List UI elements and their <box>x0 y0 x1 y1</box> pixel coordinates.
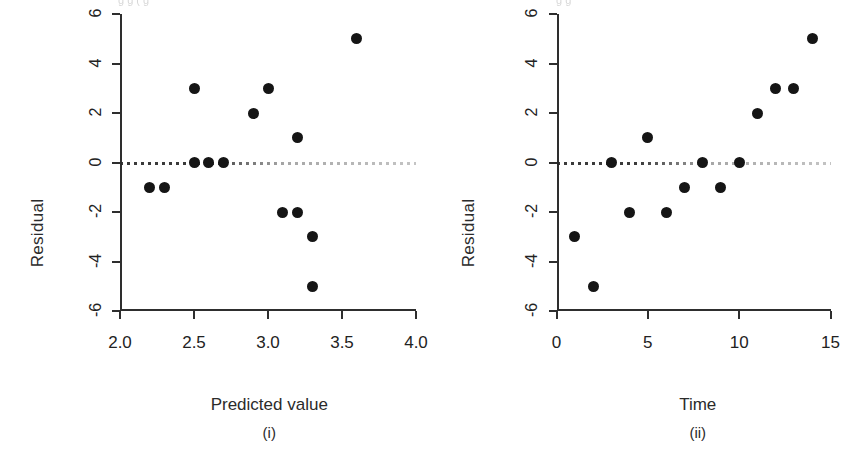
data-point <box>248 108 259 119</box>
data-point <box>277 207 288 218</box>
x-tick-1 <box>738 311 740 319</box>
y-tick-0 <box>112 261 120 263</box>
data-point <box>752 108 763 119</box>
y-tick-0 <box>112 13 120 15</box>
y-tick-label-1: 2 <box>517 103 549 121</box>
y-tick-label-1: 0 <box>517 153 549 171</box>
y-tick-0 <box>112 211 120 213</box>
data-point <box>351 33 362 44</box>
y-tick-label-1: 4 <box>517 54 549 72</box>
data-point <box>624 207 635 218</box>
data-point <box>569 231 580 242</box>
y-tick-label-0: -2 <box>80 202 112 220</box>
y-tick-0 <box>112 112 120 114</box>
y-tick-1 <box>549 112 557 114</box>
zero-reference-line-left <box>120 162 416 165</box>
y-tick-label-1: -2 <box>517 202 549 220</box>
y-tick-0 <box>112 162 120 164</box>
x-tick-1 <box>556 311 558 319</box>
y-tick-label-0: 4 <box>80 54 112 72</box>
y-tick-1 <box>549 211 557 213</box>
data-point <box>679 182 690 193</box>
data-point <box>697 157 708 168</box>
y-tick-1 <box>549 162 557 164</box>
y-tick-label-0: -4 <box>80 252 112 270</box>
data-point <box>307 231 318 242</box>
x-tick-label-0: 2.0 <box>90 333 150 353</box>
data-point <box>734 157 745 168</box>
data-point <box>307 281 318 292</box>
data-point <box>807 33 818 44</box>
data-point <box>588 281 599 292</box>
y-tick-label-0: 6 <box>80 4 112 22</box>
y-axis-title-left: Residual <box>28 198 48 267</box>
x-tick-0 <box>415 311 417 319</box>
x-tick-label-0: 3.0 <box>238 333 298 353</box>
x-axis-title-left: Predicted value <box>0 395 429 415</box>
x-tick-label-1: 10 <box>709 333 769 353</box>
plot-area-left: 6420-2-4-62.02.53.03.54.0 <box>120 14 416 311</box>
data-point <box>661 207 672 218</box>
data-point <box>715 182 726 193</box>
y-tick-label-0: 0 <box>80 153 112 171</box>
data-point <box>788 83 799 94</box>
residual-plots-figure: Residual 6420-2-4-62.02.53.03.54.0 Predi… <box>0 0 857 465</box>
x-tick-label-0: 2.5 <box>164 333 224 353</box>
data-point <box>292 207 303 218</box>
x-tick-0 <box>341 311 343 319</box>
y-tick-0 <box>112 63 120 65</box>
panel-caption-right: (ii) <box>429 424 857 441</box>
y-tick-label-0: -6 <box>80 301 112 319</box>
panel-predicted-value: Residual 6420-2-4-62.02.53.03.54.0 Predi… <box>0 0 429 465</box>
data-point <box>770 83 781 94</box>
data-point <box>189 83 200 94</box>
y-tick-label-0: 2 <box>80 103 112 121</box>
x-tick-label-1: 5 <box>618 333 678 353</box>
x-axis-line-right <box>557 309 831 311</box>
y-tick-1 <box>549 261 557 263</box>
data-point <box>218 157 229 168</box>
zero-reference-line-right <box>557 162 831 165</box>
y-tick-1 <box>549 63 557 65</box>
x-tick-label-1: 0 <box>527 333 587 353</box>
y-tick-1 <box>549 13 557 15</box>
data-point <box>642 132 653 143</box>
panel-time: Residual 6420-2-4-6051015 Time (ii) <box>429 0 857 465</box>
x-tick-1 <box>830 311 832 319</box>
x-tick-0 <box>119 311 121 319</box>
x-tick-label-1: 15 <box>801 333 857 353</box>
data-point <box>159 182 170 193</box>
data-point <box>263 83 274 94</box>
y-axis-title-right: Residual <box>459 198 479 267</box>
data-point <box>203 157 214 168</box>
data-point <box>189 157 200 168</box>
plot-area-right: 6420-2-4-6051015 <box>557 14 831 311</box>
y-tick-label-1: 6 <box>517 4 549 22</box>
x-axis-title-right: Time <box>429 395 857 415</box>
data-point <box>292 132 303 143</box>
data-point <box>606 157 617 168</box>
y-tick-label-1: -6 <box>517 301 549 319</box>
panel-caption-left: (i) <box>0 424 429 441</box>
x-tick-0 <box>193 311 195 319</box>
x-tick-0 <box>267 311 269 319</box>
y-tick-label-1: -4 <box>517 252 549 270</box>
x-tick-label-0: 3.5 <box>312 333 372 353</box>
data-point <box>144 182 155 193</box>
x-tick-1 <box>647 311 649 319</box>
